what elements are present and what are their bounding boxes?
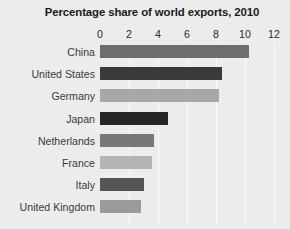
y-axis-category-labels: ChinaUnited StatesGermanyJapanNetherland… [0, 43, 95, 224]
bar-france [100, 156, 152, 169]
category-label-china: China [0, 46, 95, 58]
category-label-united-kingdom: United Kingdom [0, 201, 95, 213]
chart-title: Percentage share of world exports, 2010 [0, 6, 290, 18]
bar-united-kingdom [100, 200, 141, 213]
x-tick-label-0: 0 [97, 28, 103, 40]
x-tick-label-8: 8 [213, 28, 219, 40]
category-label-japan: Japan [0, 113, 95, 125]
bar-united-states [100, 67, 222, 80]
x-tick-label-6: 6 [184, 28, 190, 40]
bar-japan [100, 112, 168, 125]
category-label-italy: Italy [0, 179, 95, 191]
x-axis-tick-labels: 024681012 [100, 28, 274, 42]
category-label-france: France [0, 157, 95, 169]
bar-italy [100, 178, 144, 191]
gridline-10 [245, 43, 246, 224]
bar-china [100, 45, 249, 58]
bar-netherlands [100, 134, 154, 147]
gridline-12 [274, 43, 275, 224]
category-label-germany: Germany [0, 90, 95, 102]
bar-germany [100, 89, 219, 102]
x-tick-label-2: 2 [126, 28, 132, 40]
x-tick-label-4: 4 [155, 28, 161, 40]
bar-chart: Percentage share of world exports, 2010 … [0, 0, 290, 229]
x-tick-label-12: 12 [268, 28, 280, 40]
plot-area [100, 43, 274, 224]
category-label-united-states: United States [0, 68, 95, 80]
category-label-netherlands: Netherlands [0, 135, 95, 147]
x-tick-label-10: 10 [239, 28, 251, 40]
